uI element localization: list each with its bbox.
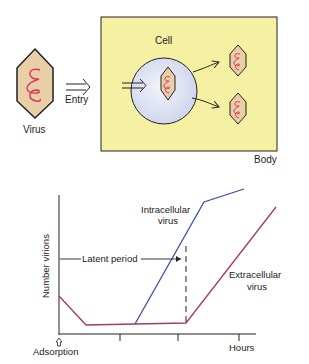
entry-label: Entry bbox=[65, 94, 88, 105]
virus-infection-figure: Virus Entry Body Cell Number virions Hou… bbox=[0, 0, 309, 364]
intracellular-label-line1: Intracellular bbox=[141, 204, 190, 215]
free-virus bbox=[17, 49, 53, 118]
extracellular-label-line2: virus bbox=[247, 281, 267, 292]
entry-arrow-icon bbox=[66, 79, 90, 95]
extracellular-label-line1: Extracellular bbox=[229, 269, 281, 280]
adsorption-label: Adsorption bbox=[33, 346, 78, 357]
virus-capsid-icon bbox=[17, 49, 53, 118]
y-axis-label: Number virions bbox=[40, 234, 51, 298]
latent-period-label: Latent period bbox=[82, 253, 137, 264]
x-axis-label: Hours bbox=[229, 342, 255, 353]
intracellular-label-line2: virus bbox=[158, 215, 178, 226]
cell-label: Cell bbox=[155, 35, 172, 46]
virus-label: Virus bbox=[23, 124, 46, 135]
adsorption-arrow-icon bbox=[56, 338, 62, 346]
body-label: Body bbox=[254, 154, 277, 165]
growth-curve-chart: Number virions Hours Adsorption Latent p… bbox=[33, 189, 281, 357]
